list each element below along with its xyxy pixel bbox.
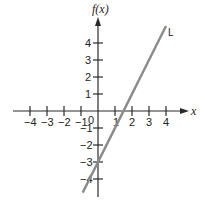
graph: x −4 −3 −2 −1 1 2 3 4 0 f(x): [0, 0, 205, 210]
x-tick-label: −3: [41, 116, 54, 128]
x-tick-label: −4: [24, 116, 37, 128]
y-tick-label: 4: [85, 37, 91, 49]
y-axis-label: f(x): [92, 2, 109, 16]
y-tick-label: 3: [85, 54, 91, 66]
x-tick-label: −2: [58, 116, 71, 128]
y-tick-label: 2: [85, 71, 91, 83]
y-tick-label: −2: [80, 139, 93, 151]
x-tick-label: 3: [146, 116, 152, 128]
line-L-label: L: [168, 27, 174, 38]
x-axis-label: x: [190, 104, 197, 118]
line-L: [83, 26, 166, 193]
x-axis-arrow-icon: [180, 108, 189, 114]
x-axis: x −4 −3 −2 −1 1 2 3 4 0: [13, 104, 197, 128]
y-axis-arrow-icon: [95, 17, 101, 26]
y-tick-label: −3: [80, 156, 93, 168]
x-tick-label: 4: [163, 116, 169, 128]
y-tick-label: 1: [85, 88, 91, 100]
y-tick-label: −1: [80, 122, 93, 134]
x-tick-label: 2: [129, 116, 135, 128]
